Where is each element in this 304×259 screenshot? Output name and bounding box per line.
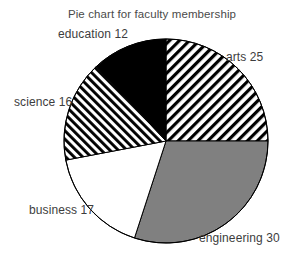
pie-chart-screenshot: Pie chart for faculty membership arts 25… — [0, 0, 304, 259]
slice-label-engineering: engineering 30 — [199, 231, 280, 245]
slice-label-education: education 12 — [58, 27, 128, 41]
pie-chart-graphic — [0, 0, 304, 259]
slice-label-business: business 17 — [29, 203, 94, 217]
slice-label-arts: arts 25 — [226, 50, 263, 64]
slice-label-science: science 16 — [14, 95, 72, 109]
pie-slices-group — [64, 39, 268, 243]
